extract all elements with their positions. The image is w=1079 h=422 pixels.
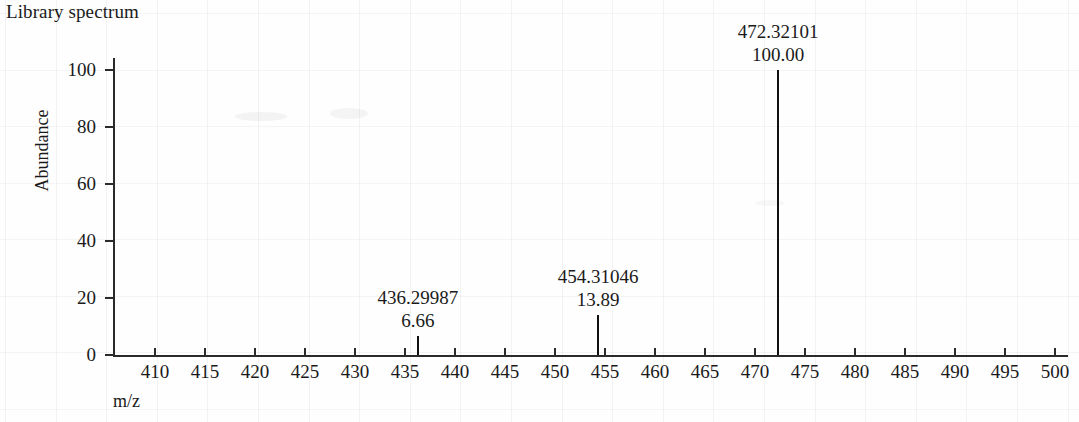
y-axis-tick <box>105 69 114 71</box>
x-axis-tick <box>154 348 156 357</box>
x-axis-tick <box>354 348 356 357</box>
peak-label: 436.299876.66 <box>318 286 518 332</box>
x-axis-tick <box>804 348 806 357</box>
x-axis-tick <box>704 348 706 357</box>
y-axis-tick <box>105 297 114 299</box>
y-axis-tick-label: 60 <box>44 174 96 193</box>
y-axis-tick <box>105 354 114 356</box>
x-axis-tick <box>1004 348 1006 357</box>
peak-mz-value: 436.29987 <box>318 286 518 309</box>
x-axis-tick <box>954 348 956 357</box>
peak-label: 472.32101100.00 <box>678 20 878 66</box>
spectrum-figure: Library spectrum Abundance m/z 020406080… <box>0 0 1079 422</box>
x-axis-tick <box>404 348 406 357</box>
x-axis-tick <box>904 348 906 357</box>
x-axis-tick <box>604 348 606 357</box>
peak-intensity-value: 6.66 <box>318 309 518 332</box>
plot-area: 020406080100 410415420425430435440445450… <box>0 0 1079 422</box>
y-axis-tick <box>105 126 114 128</box>
peak-intensity-value: 100.00 <box>678 43 878 66</box>
y-axis-tick <box>105 183 114 185</box>
y-axis-line <box>113 58 115 356</box>
x-axis-line <box>113 355 1068 357</box>
peak-label: 454.3104613.89 <box>498 265 698 311</box>
y-axis-tick-label: 20 <box>44 288 96 307</box>
x-axis-tick <box>204 348 206 357</box>
x-axis-tick <box>754 348 756 357</box>
peak-intensity-value: 13.89 <box>498 288 698 311</box>
x-axis-tick <box>454 348 456 357</box>
x-axis-tick <box>254 348 256 357</box>
x-axis-tick-label: 500 <box>1025 361 1079 383</box>
y-axis-tick-label: 80 <box>44 117 96 136</box>
peak-mz-value: 454.31046 <box>498 265 698 288</box>
peak-bar <box>417 336 419 355</box>
x-axis-tick <box>1054 348 1056 357</box>
x-axis-tick <box>304 348 306 357</box>
y-axis-tick-label: 40 <box>44 231 96 250</box>
peak-bar <box>777 70 779 355</box>
x-axis-tick <box>854 348 856 357</box>
peak-bar <box>597 315 599 355</box>
y-axis-tick-label: 100 <box>44 60 96 79</box>
y-axis-tick-label: 0 <box>44 345 96 364</box>
x-axis-tick <box>554 348 556 357</box>
x-axis-tick <box>504 348 506 357</box>
x-axis-tick <box>654 348 656 357</box>
peak-mz-value: 472.32101 <box>678 20 878 43</box>
y-axis-tick <box>105 240 114 242</box>
